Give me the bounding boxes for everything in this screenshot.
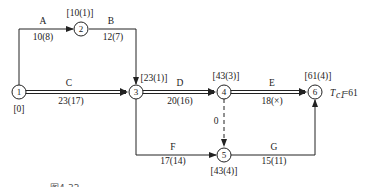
- activity-f-duration: 17(14): [160, 156, 185, 167]
- node-1-time: [0]: [13, 104, 24, 114]
- activity-c-critical: C 23(17): [26, 78, 128, 107]
- node-5: 5 [43(4)]: [211, 148, 238, 177]
- node-4-label: 4: [222, 87, 227, 97]
- figure-caption: 图4-32 ……: [50, 183, 100, 187]
- node-2: 2 [10(1)]: [67, 8, 94, 36]
- node-5-label: 5: [222, 150, 227, 160]
- activity-f: F 17(14): [136, 99, 216, 167]
- node-3-label: 3: [134, 87, 139, 97]
- dummy-duration: 0: [214, 116, 219, 126]
- computed-duration-label: T c1 =61: [330, 88, 358, 100]
- activity-e-critical: E 18(×): [231, 78, 307, 107]
- activity-b-duration: 12(7): [103, 32, 124, 43]
- activity-a-name: A: [40, 16, 47, 26]
- activity-a: A 10(8): [19, 16, 73, 85]
- activity-f-name: F: [170, 142, 175, 152]
- network-diagram: A 10(8) B 12(7) C 23(17) D 20(16) E 18(×…: [0, 0, 366, 187]
- node-2-label: 2: [79, 24, 84, 34]
- activity-d-duration: 20(16): [167, 96, 192, 107]
- node-1: 1 [0]: [12, 85, 26, 114]
- node-6-time: [61(4)]: [305, 71, 332, 82]
- activity-d-name: D: [177, 78, 184, 88]
- activity-b-name: B: [108, 16, 114, 26]
- node-3: 3 [23(1)]: [129, 73, 167, 99]
- dummy-activity: 0: [214, 99, 224, 146]
- node-5-time: [43(4)]: [211, 166, 238, 177]
- node-6: 6 [61(4)]: [305, 71, 332, 99]
- activity-c-duration: 23(17): [58, 96, 83, 107]
- activity-c-name: C: [66, 78, 72, 88]
- activity-g-name: G: [271, 142, 278, 152]
- activity-g: G 15(11): [231, 100, 315, 167]
- activity-b: B 12(7): [89, 16, 136, 84]
- node-4-time: [43(3)]: [213, 71, 240, 82]
- node-1-label: 1: [17, 87, 22, 97]
- activity-g-duration: 15(11): [262, 156, 287, 167]
- node-2-time: [10(1)]: [67, 8, 94, 19]
- activity-e-duration: 18(×): [261, 96, 282, 107]
- activity-a-duration: 10(8): [33, 32, 54, 43]
- node-4: 4 [43(3)]: [213, 71, 240, 99]
- tc-value: =61: [343, 88, 358, 98]
- node-6-label: 6: [313, 87, 318, 97]
- node-3-time: [23(1)]: [141, 73, 168, 84]
- activity-e-name: E: [269, 78, 275, 88]
